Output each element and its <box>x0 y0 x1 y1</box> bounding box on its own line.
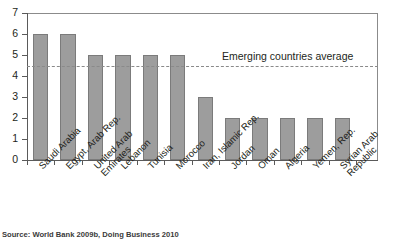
x-axis-tick <box>164 161 165 165</box>
y-axis-tick <box>22 118 27 119</box>
average-reference-line <box>27 66 378 67</box>
bar <box>33 34 48 160</box>
y-axis-tick-label: 1 <box>0 133 18 143</box>
x-axis-tick <box>246 161 247 165</box>
x-axis-tick <box>301 161 302 165</box>
y-axis-tick-label: 4 <box>0 70 18 80</box>
y-axis-tick-label: 5 <box>0 49 18 59</box>
y-axis-tick <box>22 13 27 14</box>
y-axis-tick <box>22 76 27 77</box>
y-axis-tick-label: 7 <box>0 7 18 17</box>
y-axis-tick <box>22 55 27 56</box>
x-axis-tick <box>329 161 330 165</box>
x-axis-tick <box>192 161 193 165</box>
bar <box>170 55 185 160</box>
bar-chart: 01234567 Emerging countries average Saud… <box>0 0 400 239</box>
y-axis-tick-label: 2 <box>0 112 18 122</box>
x-axis-tick <box>137 161 138 165</box>
x-axis-tick <box>27 161 28 165</box>
x-axis-tick <box>54 161 55 165</box>
y-axis-tick <box>22 34 27 35</box>
source-note: Source: World Bank 2009b, Doing Business… <box>2 231 179 239</box>
average-line-label: Emerging countries average <box>222 50 353 62</box>
x-axis-tick <box>219 161 220 165</box>
x-axis-tick <box>274 161 275 165</box>
y-axis-tick-label: 3 <box>0 91 18 101</box>
x-axis-tick <box>82 161 83 165</box>
y-axis-tick <box>22 97 27 98</box>
y-axis-tick-label: 6 <box>0 28 18 38</box>
y-axis-tick <box>22 139 27 140</box>
y-axis-line <box>27 13 28 161</box>
y-axis-tick-label: 0 <box>0 154 18 164</box>
